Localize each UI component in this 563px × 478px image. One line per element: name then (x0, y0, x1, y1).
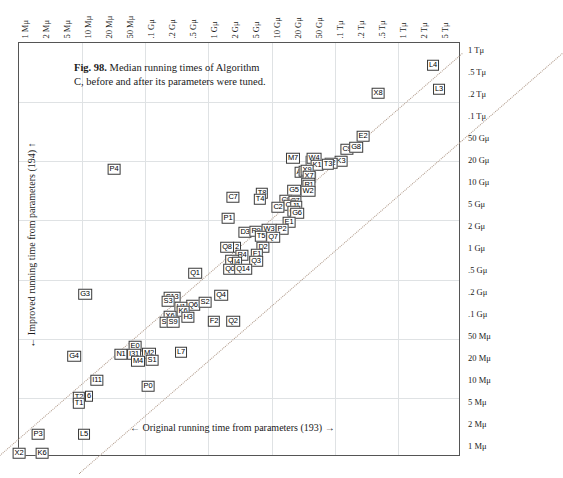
y-tick-label: 20 Mμ (468, 354, 491, 363)
grid-line-vertical (272, 43, 273, 455)
y-tick-label: 2 Mμ (468, 420, 487, 429)
x-tick-label: 50 Gμ (315, 17, 324, 38)
y-tick-label: 5 Gμ (468, 200, 485, 209)
grid-line-horizontal (19, 102, 459, 103)
y-axis-tick-labels: 1 Tμ.5 Tμ.2 Tμ.1 Tμ50 Gμ20 Gμ10 Gμ5 Gμ2 … (462, 42, 522, 456)
x-tick-label: 10 Mμ (83, 15, 92, 38)
y-tick-label: 1 Gμ (468, 244, 485, 253)
x-tick-label: 20 Gμ (294, 17, 303, 38)
y-tick-label: .1 Gμ (468, 310, 487, 319)
y-tick-label: .1 Tμ (468, 112, 486, 121)
y-tick-label: 5 Mμ (468, 398, 487, 407)
data-point-label: S9 (167, 317, 180, 328)
y-tick-label: 50 Mμ (468, 332, 491, 341)
x-tick-label: .2 Tμ (357, 20, 366, 38)
y-tick-label: .5 Gμ (468, 266, 487, 275)
caption-label: Fig. 98. (74, 62, 107, 73)
x-tick-label: 5 Mμ (62, 20, 71, 39)
figure-caption: Fig. 98. Median running times of Algorit… (74, 61, 270, 89)
data-point-label: F2 (208, 316, 220, 327)
data-point-label: P3 (32, 429, 45, 440)
data-point-label: T1 (73, 398, 85, 409)
y-tick-label: .2 Tμ (468, 90, 486, 99)
y-tick-label: 2 Gμ (468, 222, 485, 231)
data-point-label: P1 (222, 213, 235, 224)
y-axis-title: ← Improved running time from parameters … (26, 95, 37, 395)
data-point-label: C2 (271, 202, 284, 213)
data-point-label: M7 (286, 153, 300, 164)
data-point-label: Q2 (226, 316, 240, 327)
data-point-label: Q1 (188, 268, 202, 279)
x-tick-label: .5 Tμ (378, 20, 387, 38)
x-tick-label: .1 Gμ (146, 19, 155, 38)
data-point-label: 6 (85, 391, 93, 402)
grid-line-horizontal (19, 339, 459, 340)
data-point-label: Q4 (214, 290, 228, 301)
x-tick-label: 2 Mμ (41, 20, 50, 39)
data-point-label: L5 (78, 429, 90, 440)
data-point-label: L3 (433, 84, 445, 95)
x-tick-label: 20 Mμ (104, 15, 113, 38)
x-tick-label: .5 Gμ (188, 19, 197, 38)
data-point-label: X2 (13, 448, 26, 459)
y-tick-label: .2 Gμ (468, 288, 487, 297)
data-point-label: Q7 (266, 232, 280, 243)
data-point-label: I11 (90, 375, 103, 386)
data-point-label: L7 (175, 347, 187, 358)
data-point-label: S3 (162, 296, 175, 307)
x-tick-label: 50 Mμ (125, 15, 134, 38)
data-point-label: Q14 (234, 264, 252, 275)
data-point-label: L4 (427, 60, 439, 71)
y-tick-label: 10 Mμ (468, 376, 491, 385)
x-tick-label: 2 Tμ (420, 22, 429, 38)
data-point-label: G5 (287, 185, 301, 196)
data-point-label: W2 (301, 186, 316, 197)
x-tick-label: .1 Tμ (336, 20, 345, 38)
data-point-label: T4 (254, 194, 266, 205)
y-tick-label: 1 Tμ (468, 46, 484, 55)
grid-line-horizontal (19, 161, 459, 162)
x-axis-title: ← Original running time from parameters … (130, 422, 335, 433)
data-point-label: P0 (142, 381, 155, 392)
data-point-label: H3 (181, 312, 194, 323)
grid-line-horizontal (19, 220, 459, 221)
grid-line-horizontal (19, 280, 459, 281)
x-tick-label: 1 Gμ (209, 21, 218, 38)
data-point-label: P4 (108, 164, 121, 175)
data-point-label: K6 (36, 448, 49, 459)
x-axis-tick-labels: 1 Mμ2 Mμ5 Mμ10 Mμ20 Mμ50 Mμ.1 Gμ.2 Gμ.5 … (18, 0, 460, 40)
data-point-label: S1 (146, 355, 159, 366)
data-point-label: X8 (372, 88, 385, 99)
x-tick-label: 5 Tμ (441, 22, 450, 38)
y-tick-label: 10 Gμ (468, 178, 489, 187)
x-tick-label: .2 Gμ (167, 19, 176, 38)
grid-line-vertical (398, 43, 399, 455)
data-point-label: T3 (322, 159, 334, 170)
x-tick-label: 5 Gμ (252, 21, 261, 38)
x-tick-label: 10 Gμ (273, 17, 282, 38)
x-tick-label: 1 Mμ (20, 20, 29, 39)
data-point-label: N1 (114, 349, 127, 360)
data-point-label: C7 (226, 192, 239, 203)
y-tick-label: 50 Gμ (468, 134, 489, 143)
y-tick-label: 20 Gμ (468, 156, 489, 165)
data-point-label: G3 (78, 289, 92, 300)
data-point-label: M4 (131, 356, 145, 367)
y-tick-label: .5 Tμ (468, 68, 486, 77)
data-point-label: Q8 (220, 242, 234, 253)
data-point-label: G4 (67, 351, 81, 362)
plot-area: L4L3X8E2C9G8K3M7V4W4K2K1T3A8K8X9I7X7Q5R1… (18, 42, 460, 456)
grid-line-vertical (208, 43, 209, 455)
grid-line-vertical (145, 43, 146, 455)
y-tick-label: 1 Mμ (468, 442, 487, 451)
x-tick-label: 1 Tμ (399, 22, 408, 38)
data-point-label: E2 (357, 131, 370, 142)
data-point-label: S2 (199, 297, 212, 308)
x-tick-label: 2 Gμ (231, 21, 240, 38)
data-point-label: G8 (349, 142, 363, 153)
